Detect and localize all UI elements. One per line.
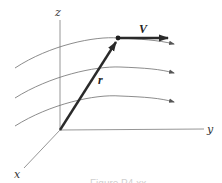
figure-caption: Figure P4.xx (90, 178, 146, 183)
x-axis (24, 130, 60, 168)
y-axis (60, 129, 204, 130)
x-axis-label: x (14, 168, 21, 181)
coordinate-axes (24, 20, 204, 168)
velocity-label: V (139, 22, 148, 36)
flow-field-diagram: z y x V r Figure P4.xx (0, 0, 222, 183)
z-axis-label: z (54, 6, 61, 19)
position-vector-r (60, 42, 116, 130)
y-axis-label: y (206, 123, 214, 136)
streamline-middle (15, 67, 174, 98)
streamlines (15, 38, 174, 126)
streamline-bottom (15, 96, 174, 126)
streamline-top (15, 38, 174, 68)
position-vector-line (60, 42, 116, 130)
particle-point (116, 36, 121, 41)
position-label: r (98, 73, 103, 87)
